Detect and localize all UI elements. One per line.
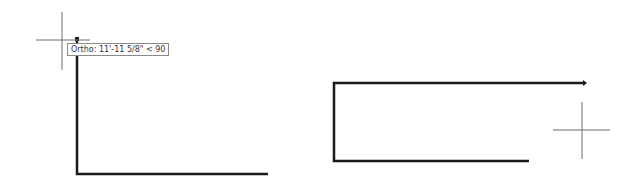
- right-drawing: [334, 80, 610, 161]
- left-drawing: [36, 12, 268, 174]
- ortho-tooltip: Ortho: 11'-11 5/8" < 90: [67, 43, 169, 56]
- polyline-right[interactable]: [334, 83, 583, 161]
- polyline-left[interactable]: [77, 39, 268, 174]
- drawing-canvas[interactable]: [0, 0, 643, 183]
- arrowhead-icon: [583, 80, 587, 86]
- crosshair-cursor-icon: [553, 102, 610, 159]
- crosshair-cursor-icon: [36, 12, 90, 70]
